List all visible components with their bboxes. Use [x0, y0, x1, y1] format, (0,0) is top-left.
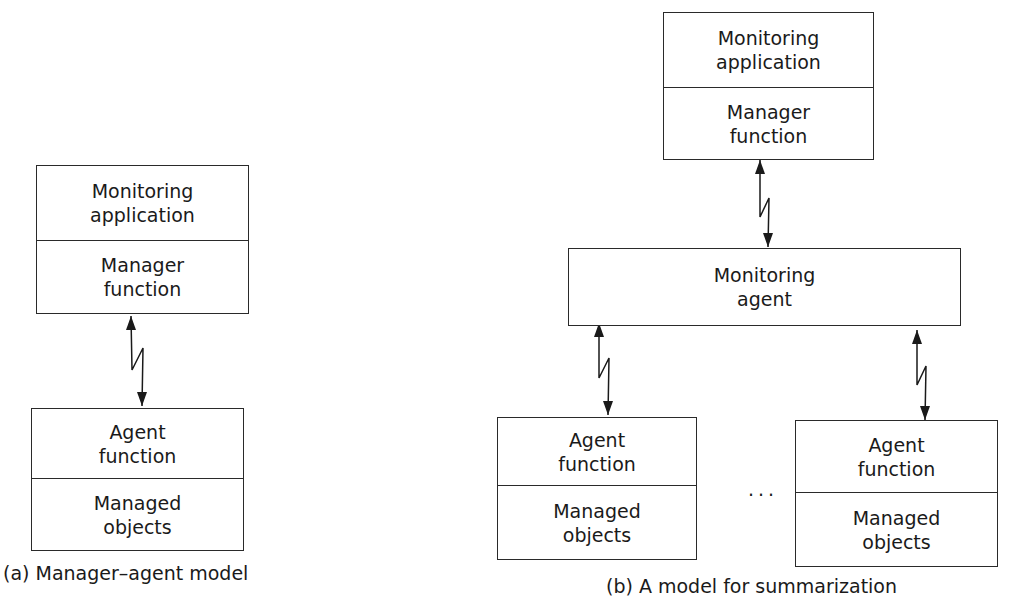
b-agent-stack-n: Agent function Managed objects — [795, 420, 998, 567]
ellipsis: ... — [748, 478, 778, 500]
b-manager-stack: Monitoring application Manager function — [663, 12, 874, 160]
b-monitoring-agent: Monitoring agent — [568, 248, 961, 326]
link-b-monitoring-agent-agent-1 — [594, 323, 613, 415]
a-monitoring-application: Monitoring application — [37, 166, 248, 240]
b-agent-n-function: Agent function — [796, 421, 997, 492]
link-a-manager-agent — [126, 316, 147, 406]
b-agent-1-managed-objects: Managed objects — [498, 486, 696, 559]
b-monitoring-agent-label: Monitoring agent — [569, 249, 960, 325]
b-agent-n-managed-objects: Managed objects — [796, 493, 997, 566]
caption-b: (b) A model for summarization — [606, 575, 897, 597]
b-monitoring-application: Monitoring application — [664, 13, 873, 87]
b-manager-function: Manager function — [664, 88, 873, 159]
a-manager-function: Manager function — [37, 241, 248, 313]
b-agent-stack-1: Agent function Managed objects — [497, 417, 697, 560]
a-agent-function: Agent function — [32, 409, 243, 478]
a-managed-objects: Managed objects — [32, 479, 243, 550]
a-manager-stack: Monitoring application Manager function — [36, 165, 249, 314]
b-agent-1-function: Agent function — [498, 418, 696, 485]
caption-a: (a) Manager–agent model — [3, 562, 248, 584]
link-b-manager-monitoring-agent — [755, 160, 773, 247]
a-agent-stack: Agent function Managed objects — [31, 408, 244, 551]
link-b-monitoring-agent-agent-n — [912, 330, 930, 420]
